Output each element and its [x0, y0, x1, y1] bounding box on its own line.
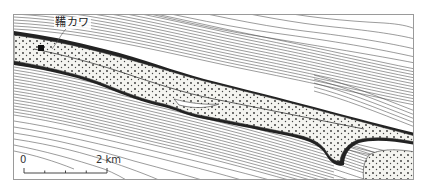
scale-end-label: 2 km [96, 154, 121, 165]
map-frame: 鞴カワ 0 2 km [13, 14, 414, 180]
settlement-marker [38, 45, 44, 51]
contour-map [14, 15, 414, 180]
southeast-islet [363, 150, 414, 180]
place-label: 鞴カワ [54, 17, 91, 29]
scale-bar [24, 168, 107, 173]
scale-start-label: 0 [20, 154, 26, 165]
